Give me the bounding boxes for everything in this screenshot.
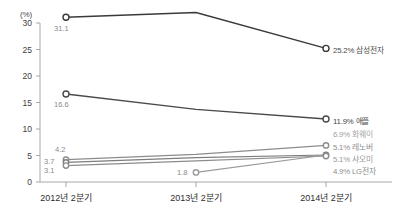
point-label-samsung-2012: 31.1 bbox=[54, 24, 69, 33]
point-label-xiaomi-2013: 1.8 bbox=[177, 168, 187, 177]
x-tick-marks bbox=[66, 182, 326, 187]
marker-apple-2014 bbox=[323, 116, 329, 122]
series-label-lenovo-pct: 5.1% bbox=[333, 143, 350, 152]
series-label-apple-name: 애플 bbox=[356, 117, 370, 126]
y-tick-0: 0 bbox=[12, 177, 32, 187]
marker-lg-2014 bbox=[323, 153, 328, 158]
y-tick-5: 5 bbox=[12, 151, 32, 161]
series-label-xiaomi-pct: 5.1% bbox=[333, 155, 350, 164]
series-label-apple-pct: 11.9% bbox=[333, 117, 354, 126]
marker-apple-2012 bbox=[63, 91, 69, 97]
marker-samsung-2012 bbox=[63, 14, 69, 20]
y-tick-25: 25 bbox=[12, 45, 32, 55]
series-label-samsung-pct: 25.2% bbox=[333, 46, 354, 55]
point-label-apple-2012: 16.6 bbox=[54, 100, 69, 109]
series-line-apple bbox=[66, 94, 326, 119]
marker-lg-2012 bbox=[63, 163, 68, 168]
series-label-huawei-pct: 6.9% bbox=[333, 130, 350, 139]
point-label-lg-2012: 3.1 bbox=[44, 166, 54, 175]
series-label-huawei-name: 화웨이 bbox=[352, 130, 372, 139]
x-tick-2012: 2012년 2분기 bbox=[16, 191, 116, 204]
series-line-samsung bbox=[66, 13, 326, 49]
series-label-lenovo-name: 레노버 bbox=[352, 143, 372, 152]
y-tick-10: 10 bbox=[12, 124, 32, 134]
series-label-lg: 4.9%LG전자 bbox=[333, 165, 376, 176]
y-tick-30: 30 bbox=[12, 18, 32, 28]
series-label-lg-name: LG전자 bbox=[352, 167, 376, 176]
series-label-lenovo: 5.1%레노버 bbox=[333, 141, 372, 152]
point-label-lenovo-2012: 3.7 bbox=[44, 157, 54, 166]
y-tick-15: 15 bbox=[12, 98, 32, 108]
point-label-huawei-2012: 4.2 bbox=[55, 145, 65, 154]
series-label-samsung: 25.2%삼성전자 bbox=[333, 44, 383, 55]
marker-xiaomi-2013 bbox=[193, 170, 198, 175]
line-chart: (%) 30 25 20 15 10 5 0 2012년 2분기 2013년 2… bbox=[0, 0, 399, 217]
x-tick-2013: 2013년 2분기 bbox=[146, 191, 246, 204]
y-tick-20: 20 bbox=[12, 71, 32, 81]
y-tick-marks bbox=[36, 23, 40, 182]
series-label-huawei: 6.9%화웨이 bbox=[333, 128, 372, 139]
series-label-apple: 11.9%애플 bbox=[333, 115, 369, 126]
series-label-xiaomi-name: 샤오미 bbox=[352, 155, 372, 164]
series-label-lg-pct: 4.9% bbox=[333, 167, 350, 176]
series-label-xiaomi: 5.1%샤오미 bbox=[333, 153, 372, 164]
marker-samsung-2014 bbox=[323, 45, 329, 51]
x-tick-2014: 2014년 2분기 bbox=[276, 191, 376, 204]
marker-huawei-2014 bbox=[323, 143, 328, 148]
series-label-samsung-name: 삼성전자 bbox=[356, 46, 383, 55]
